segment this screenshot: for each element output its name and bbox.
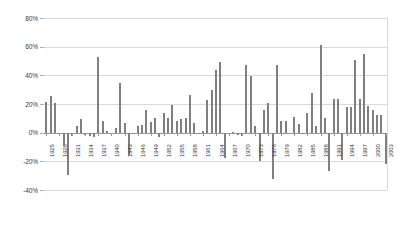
bar — [219, 62, 221, 132]
bar — [63, 133, 65, 145]
bar — [211, 90, 213, 132]
x-axis-tick — [138, 133, 139, 136]
x-axis-tick-label: 1970 — [245, 144, 251, 157]
gridline — [44, 190, 387, 191]
x-axis-tick — [203, 133, 204, 136]
bar — [215, 70, 217, 133]
bar — [102, 121, 104, 132]
bar — [320, 45, 322, 132]
bar — [193, 123, 195, 132]
bar — [385, 133, 387, 165]
bar — [298, 124, 300, 133]
bar — [285, 121, 287, 132]
bar — [80, 119, 82, 133]
x-axis-tick — [334, 133, 335, 136]
x-axis-tick — [281, 133, 282, 136]
x-axis-tick-label: 1979 — [284, 144, 290, 157]
bar — [119, 83, 121, 132]
y-axis-tick — [40, 47, 44, 48]
bar — [315, 126, 317, 132]
x-axis-tick-label: 2003 — [388, 144, 394, 157]
x-axis-tick — [347, 133, 348, 136]
bar — [198, 133, 200, 134]
y-axis-tick-label: 20% — [2, 101, 38, 108]
x-axis-tick-label: 1988 — [323, 144, 329, 157]
bar — [163, 113, 165, 133]
bar — [167, 118, 169, 132]
bar — [354, 60, 356, 132]
bar — [97, 57, 99, 132]
bar — [293, 117, 295, 133]
x-axis-tick — [72, 133, 73, 136]
y-axis-tick-label: 60% — [2, 43, 38, 50]
bar — [276, 65, 278, 132]
bar — [359, 99, 361, 133]
x-axis-tick-label: 1982 — [297, 144, 303, 157]
bar — [50, 96, 52, 133]
x-axis-tick — [321, 133, 322, 136]
x-axis-tick-label: 1964 — [219, 144, 225, 157]
x-axis-tick-label: 1940 — [114, 144, 120, 157]
x-axis-tick — [98, 133, 99, 136]
bar — [380, 115, 382, 132]
y-axis-tick — [40, 133, 44, 134]
x-axis-tick-label: 1976 — [271, 144, 277, 157]
bar — [250, 76, 252, 133]
x-axis-tick — [242, 133, 243, 136]
bar — [54, 103, 56, 133]
x-axis-tick — [125, 133, 126, 136]
y-axis-tick — [40, 190, 44, 191]
x-axis-tick — [360, 133, 361, 136]
bar — [350, 107, 352, 133]
x-axis-tick — [177, 133, 178, 136]
bar — [176, 121, 178, 132]
gridline — [44, 161, 387, 162]
annual-returns-bar-chart: 80%60%40%20%0%-20%-40% 19251928193119341… — [0, 0, 398, 233]
x-axis-tick — [307, 133, 308, 136]
bar — [137, 126, 139, 133]
gridline — [44, 18, 387, 19]
bar — [232, 132, 234, 133]
x-axis-tick — [111, 133, 112, 136]
bar — [302, 133, 304, 134]
bar — [333, 99, 335, 133]
x-axis-tick-label: 2000 — [375, 144, 381, 157]
bar — [206, 100, 208, 133]
x-axis-tick-label: 1943 — [127, 144, 133, 157]
bar — [363, 54, 365, 133]
y-axis-tick-label: -20% — [2, 158, 38, 165]
x-axis-tick — [386, 133, 387, 136]
bar — [106, 131, 108, 133]
x-axis-tick-label: 1991 — [336, 144, 342, 157]
bar — [311, 93, 313, 132]
y-axis-tick — [40, 104, 44, 105]
y-axis-tick — [40, 75, 44, 76]
x-axis-tick — [255, 133, 256, 136]
x-axis-tick-label: 1937 — [101, 144, 107, 157]
bar — [324, 118, 326, 132]
bar — [76, 126, 78, 133]
bar — [124, 123, 126, 132]
x-axis-tick-label: 1952 — [166, 144, 172, 157]
bar — [89, 133, 91, 137]
bar — [45, 102, 47, 133]
plot-area — [44, 18, 388, 190]
x-axis-tick-label: 1961 — [205, 144, 211, 157]
x-axis-tick — [164, 133, 165, 136]
bar — [267, 103, 269, 133]
x-axis-tick-label: 1973 — [258, 144, 264, 157]
bar — [180, 119, 182, 133]
bar — [154, 118, 156, 132]
bar — [145, 110, 147, 133]
y-axis-tick-label: 80% — [2, 15, 38, 22]
x-axis-tick-label: 1967 — [232, 144, 238, 157]
x-axis-tick-label: 1928 — [62, 144, 68, 157]
x-axis-tick — [373, 133, 374, 136]
x-axis-tick — [216, 133, 217, 136]
bar — [158, 133, 160, 137]
x-axis-tick — [46, 133, 47, 136]
y-axis-tick-label: 0% — [2, 129, 38, 136]
bar — [141, 125, 143, 133]
bar — [376, 115, 378, 132]
bar — [115, 128, 117, 133]
